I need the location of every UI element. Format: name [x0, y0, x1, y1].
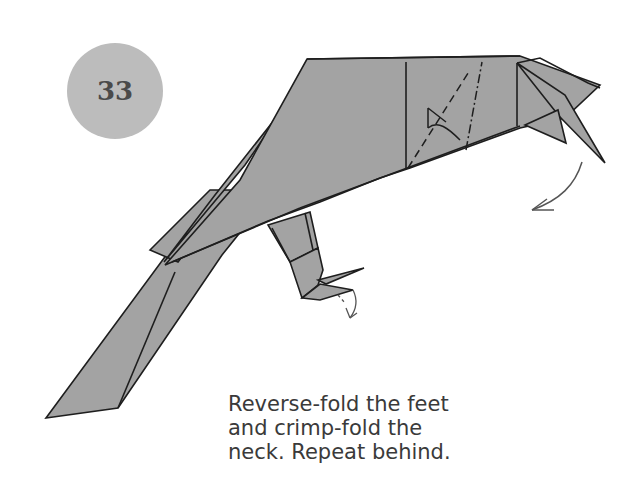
crimp-arrow-icon — [532, 162, 582, 210]
tail — [46, 225, 246, 418]
instruction-line-3: neck. Repeat behind. — [228, 440, 528, 464]
instruction-line-1: Reverse-fold the feet — [228, 392, 528, 416]
foot-upper — [318, 268, 364, 284]
instruction-caption: Reverse-fold the feet and crimp-fold the… — [228, 392, 528, 464]
body — [165, 56, 600, 265]
instruction-line-2: and crimp-fold the — [228, 416, 528, 440]
